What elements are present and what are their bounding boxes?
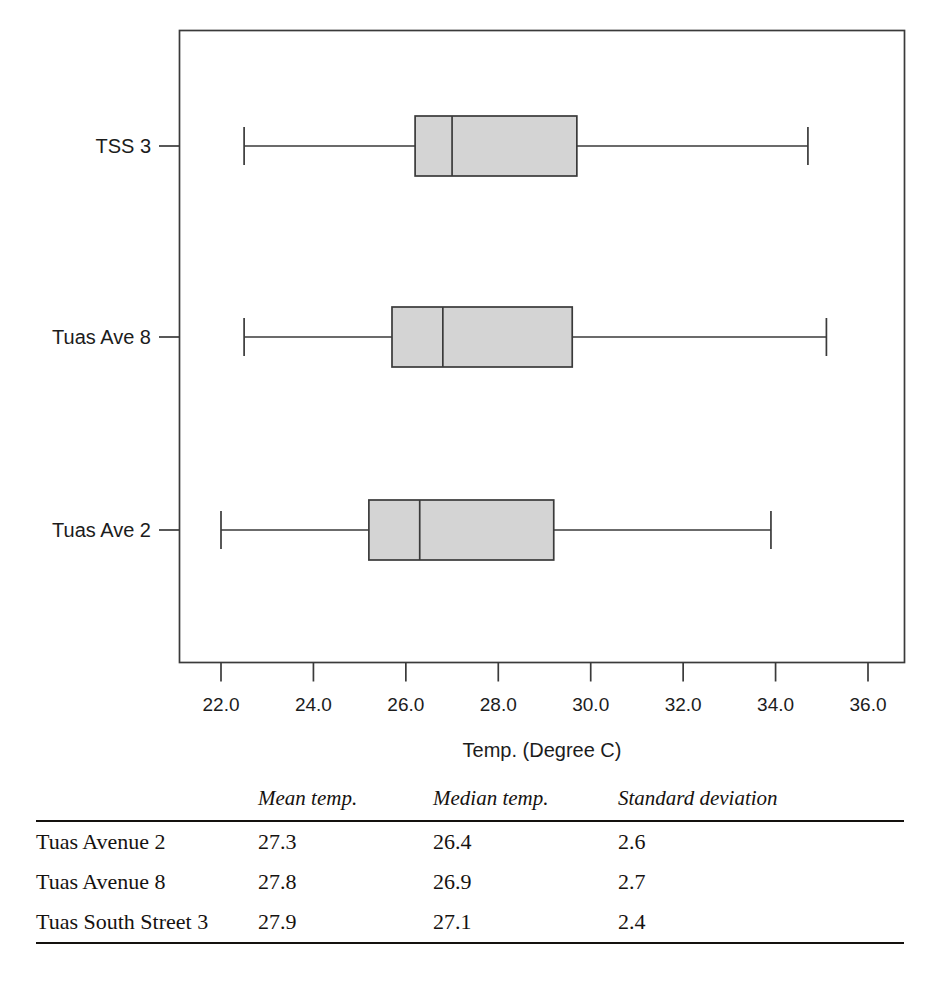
standard-deviation-cell: 2.4 (618, 902, 904, 943)
mean-temp-cell: 27.8 (258, 862, 433, 902)
table-row: Tuas Avenue 827.826.92.7 (36, 862, 904, 902)
boxplot-chart: 22.024.026.028.030.032.034.036.0 TSS 3Tu… (0, 0, 941, 780)
x-tick-label: 24.0 (295, 694, 332, 715)
median-temp-cell: 26.4 (433, 821, 618, 862)
table-body: Tuas Avenue 227.326.42.6Tuas Avenue 827.… (36, 821, 904, 943)
x-tick-label: 34.0 (757, 694, 794, 715)
x-tick-label: 28.0 (480, 694, 517, 715)
x-axis-title: Temp. (Degree C) (463, 739, 622, 761)
x-tick-label: 22.0 (203, 694, 240, 715)
standard-deviation-cell: 2.6 (618, 821, 904, 862)
x-axis-tick-labels: 22.024.026.028.030.032.034.036.0 (203, 694, 887, 715)
y-axis-ticks (159, 146, 180, 530)
statistics-table-container: Mean temp. Median temp. Standard deviati… (36, 782, 904, 944)
mean-temp-cell: 27.3 (258, 821, 433, 862)
column-header-name (36, 782, 258, 821)
iqr-box (392, 307, 572, 367)
boxplot-figure: 22.024.026.028.030.032.034.036.0 TSS 3Tu… (0, 0, 941, 780)
y-category-label: TSS 3 (95, 135, 151, 157)
statistics-table: Mean temp. Median temp. Standard deviati… (36, 782, 904, 944)
row-label-cell: Tuas South Street 3 (36, 902, 258, 943)
standard-deviation-cell: 2.7 (618, 862, 904, 902)
box-plot-item (244, 307, 826, 367)
column-header-mean: Mean temp. (258, 782, 433, 821)
column-header-median: Median temp. (433, 782, 618, 821)
column-header-sd: Standard deviation (618, 782, 904, 821)
table-header-row: Mean temp. Median temp. Standard deviati… (36, 782, 904, 821)
y-axis-category-labels: TSS 3Tuas Ave 8Tuas Ave 2 (52, 135, 151, 541)
box-plot-item (221, 500, 771, 560)
x-tick-label: 32.0 (665, 694, 702, 715)
y-category-label: Tuas Ave 2 (52, 519, 151, 541)
row-label-cell: Tuas Avenue 8 (36, 862, 258, 902)
box-plot-series (221, 116, 826, 560)
row-label-cell: Tuas Avenue 2 (36, 821, 258, 862)
median-temp-cell: 26.9 (433, 862, 618, 902)
median-temp-cell: 27.1 (433, 902, 618, 943)
iqr-box (415, 116, 577, 176)
y-category-label: Tuas Ave 8 (52, 326, 151, 348)
x-tick-label: 36.0 (850, 694, 887, 715)
x-tick-label: 30.0 (572, 694, 609, 715)
table-row: Tuas South Street 327.927.12.4 (36, 902, 904, 943)
box-plot-item (244, 116, 808, 176)
x-tick-label: 26.0 (387, 694, 424, 715)
iqr-box (369, 500, 554, 560)
mean-temp-cell: 27.9 (258, 902, 433, 943)
table-header: Mean temp. Median temp. Standard deviati… (36, 782, 904, 821)
x-axis-ticks (221, 663, 868, 682)
table-row: Tuas Avenue 227.326.42.6 (36, 821, 904, 862)
